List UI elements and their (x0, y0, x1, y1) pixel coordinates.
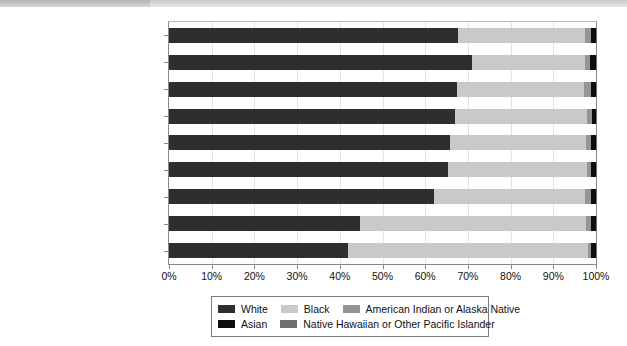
legend-row: WhiteBlackAmerican Indian or Alaska Nati… (218, 301, 482, 316)
chart-row[interactable]: Total (169, 22, 596, 49)
bar-segment[interactable] (169, 162, 448, 177)
chart-row[interactable]: Rape (169, 130, 596, 157)
legend-label: White (241, 303, 268, 315)
bar-segment[interactable] (169, 28, 458, 43)
x-axis-tick (553, 264, 554, 269)
x-axis-tick-label: 60% (415, 270, 436, 282)
legend-swatch (343, 305, 360, 313)
bar-segment[interactable] (169, 55, 472, 70)
chart-row[interactable]: Arson (169, 49, 596, 76)
bar-segment[interactable] (169, 135, 450, 150)
x-axis-tick-label: 40% (329, 270, 350, 282)
chart-row[interactable]: Burglary (169, 103, 596, 130)
bar-segment[interactable] (457, 82, 585, 97)
legend-label: Black (304, 303, 330, 315)
x-axis-tick-label: 70% (457, 270, 478, 282)
chart-figure: 0%10%20%30%40%50%60%70%80%90%100%TotalAr… (0, 7, 627, 346)
bar-segment[interactable] (455, 109, 587, 124)
x-axis-tick-label: 80% (500, 270, 521, 282)
bar-segment[interactable] (169, 189, 434, 204)
legend-row: AsianNative Hawaiian or Other Pacific Is… (218, 316, 482, 331)
legend-swatch (280, 320, 297, 328)
stacked-bar[interactable] (169, 216, 596, 231)
x-axis-tick (212, 264, 213, 269)
legend-label: Native Hawaiian or Other Pacific Islande… (303, 318, 494, 330)
bar-segment[interactable] (348, 243, 588, 258)
x-axis-tick (340, 264, 341, 269)
x-axis-tick (468, 264, 469, 269)
window-chrome-strip (0, 0, 627, 7)
x-axis-tick (254, 264, 255, 269)
x-axis-tick (297, 264, 298, 269)
legend-swatch (218, 320, 235, 328)
plot-area: 0%10%20%30%40%50%60%70%80%90%100%TotalAr… (168, 21, 597, 265)
x-axis-tick (169, 264, 170, 269)
stacked-bar[interactable] (169, 28, 596, 43)
stacked-bar[interactable] (169, 55, 596, 70)
x-axis-tick (511, 264, 512, 269)
x-axis-tick-label: 10% (201, 270, 222, 282)
legend-label: Asian (241, 318, 267, 330)
stacked-bar[interactable] (169, 162, 596, 177)
chart-row[interactable]: Robbery (169, 237, 596, 264)
bar-segment[interactable] (472, 55, 585, 70)
plot-wrapper: 0%10%20%30%40%50%60%70%80%90%100%TotalAr… (0, 7, 627, 287)
x-axis-tick (596, 264, 597, 269)
bar-segment[interactable] (458, 28, 586, 43)
chart-legend: WhiteBlackAmerican Indian or Alaska Nati… (211, 296, 489, 337)
x-axis-tick-label: 100% (583, 270, 610, 282)
chart-row[interactable]: Murder and nonnegligentmanslaughter (169, 210, 596, 237)
x-axis-tick-label: 50% (372, 270, 393, 282)
chart-row[interactable]: Aggravated assault (169, 183, 596, 210)
legend-item[interactable]: Native Hawaiian or Other Pacific Islande… (280, 318, 494, 330)
bar-segment[interactable] (169, 109, 455, 124)
x-axis-tick-label: 20% (244, 270, 265, 282)
window-chrome-left (0, 0, 150, 7)
chart-row[interactable]: Larceny-theft (169, 76, 596, 103)
legend-item[interactable]: White (218, 303, 268, 315)
x-axis-tick-label: 30% (287, 270, 308, 282)
x-axis-tick (383, 264, 384, 269)
stacked-bar[interactable] (169, 189, 596, 204)
x-axis-tick (425, 264, 426, 269)
legend-item[interactable]: Asian (218, 318, 267, 330)
legend-swatch (218, 305, 235, 313)
bar-segment[interactable] (169, 216, 360, 231)
legend-item[interactable]: American Indian or Alaska Native (343, 303, 521, 315)
chart-row[interactable]: Motor vehicle theft (169, 156, 596, 183)
bar-segment[interactable] (360, 216, 586, 231)
stacked-bar[interactable] (169, 109, 596, 124)
legend-swatch (281, 305, 298, 313)
legend-item[interactable]: Black (281, 303, 330, 315)
legend-label: American Indian or Alaska Native (366, 303, 521, 315)
stacked-bar[interactable] (169, 243, 596, 258)
stacked-bar[interactable] (169, 82, 596, 97)
bar-segment[interactable] (450, 135, 586, 150)
x-axis-tick-label: 90% (543, 270, 564, 282)
bar-segment[interactable] (169, 243, 348, 258)
bar-segment[interactable] (434, 189, 586, 204)
x-axis-tick-label: 0% (161, 270, 176, 282)
bar-segment[interactable] (448, 162, 587, 177)
bar-segment[interactable] (169, 82, 457, 97)
stacked-bar[interactable] (169, 135, 596, 150)
